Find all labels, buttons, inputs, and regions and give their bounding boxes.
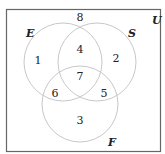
- region-E-and-S: 4: [77, 43, 84, 56]
- region-E-and-F: 6: [52, 87, 59, 100]
- set-label-e: E: [25, 27, 35, 40]
- region-outside: 8: [77, 11, 84, 24]
- venn-diagram: ESFU81427653: [0, 0, 165, 154]
- set-label-s: S: [128, 27, 136, 40]
- set-label-f: F: [107, 136, 117, 149]
- region-E-S-F: 7: [77, 70, 84, 83]
- region-E-only: 1: [35, 54, 42, 67]
- region-S-only: 2: [113, 52, 120, 65]
- region-F-only: 3: [77, 114, 84, 127]
- set-circle-s: [58, 23, 136, 101]
- region-S-and-F: 5: [101, 87, 108, 100]
- universe-label: U: [152, 14, 163, 27]
